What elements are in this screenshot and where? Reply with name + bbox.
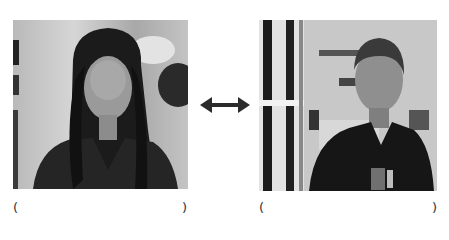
- woman-photo: [13, 20, 188, 189]
- left-caption-blank[interactable]: [22, 202, 182, 214]
- left-caption-close-paren: ): [182, 200, 187, 215]
- left-caption-open-paren: (: [13, 200, 18, 215]
- man-photo: [259, 20, 437, 191]
- double-arrow-icon: [200, 95, 250, 115]
- man-image: [259, 20, 437, 191]
- right-caption-open-paren: (: [259, 200, 264, 215]
- right-caption-close-paren: ): [432, 200, 437, 215]
- woman-image: [13, 20, 188, 189]
- right-caption-blank[interactable]: [268, 202, 428, 214]
